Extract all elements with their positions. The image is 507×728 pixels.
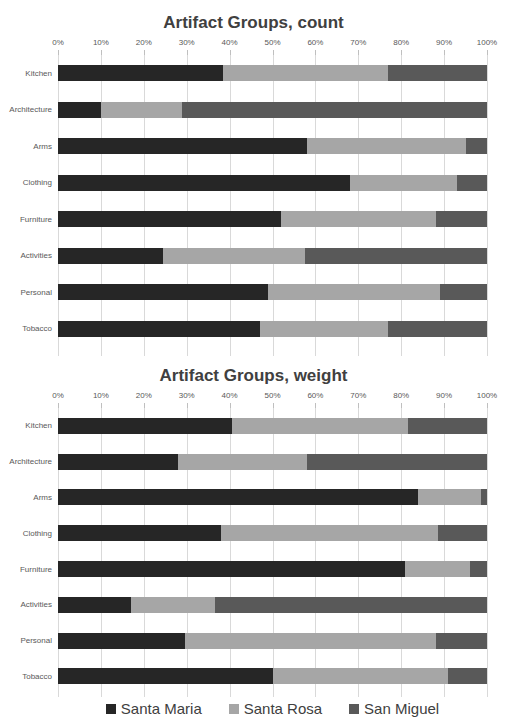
plot-body: KitchenArchitectureArmsClothingFurniture… [58, 408, 487, 697]
axis-tick-label: 10% [93, 391, 109, 400]
bar-row: Arms [58, 480, 487, 516]
legend: Santa Maria Santa Rosa San Miguel [58, 700, 487, 717]
axis-tick-label: 90% [436, 391, 452, 400]
bar-segment-san-miguel [440, 284, 487, 300]
axis-tick-label: 70% [350, 38, 366, 47]
stacked-bar [58, 668, 487, 684]
axis-tick-label: 50% [264, 391, 280, 400]
stacked-bar [58, 175, 487, 191]
chart-count: Artifact Groups, count 0%10%20%30%40%50%… [0, 12, 507, 356]
stacked-bar [58, 284, 487, 300]
bar-segment-santa-rosa [221, 525, 438, 541]
bar-segment-santa-maria [58, 668, 273, 684]
bar-row: Personal [58, 623, 487, 659]
axis-tick-label: 20% [136, 38, 152, 47]
legend-item-san-miguel: San Miguel [349, 700, 439, 717]
axis-tick-label: 60% [307, 38, 323, 47]
bar-segment-san-miguel [408, 418, 487, 434]
category-label: Activities [0, 600, 52, 609]
plot-area: 0%10%20%30%40%50%60%70%80%90%100% Kitche… [58, 38, 487, 356]
chart-title: Artifact Groups, count [0, 12, 507, 34]
stacked-bar [58, 454, 487, 470]
bar-row: Arms [58, 128, 487, 165]
page: Artifact Groups, count 0%10%20%30%40%50%… [0, 0, 507, 728]
bar-row: Furniture [58, 551, 487, 587]
bar-segment-san-miguel [481, 489, 487, 505]
axis-tick-label: 40% [222, 391, 238, 400]
legend-swatch-icon [349, 704, 359, 714]
x-axis: 0%10%20%30%40%50%60%70%80%90%100% [58, 38, 487, 50]
gridline [487, 408, 488, 697]
axis-tick-label: 40% [222, 38, 238, 47]
bar-segment-san-miguel [388, 65, 487, 81]
chart-weight: Artifact Groups, weight 0%10%20%30%40%50… [0, 365, 507, 697]
category-label: Furniture [0, 565, 52, 574]
stacked-bar [58, 597, 487, 613]
bar-segment-santa-maria [58, 321, 260, 337]
category-label: Architecture [0, 105, 52, 114]
plot-body: KitchenArchitectureArmsClothingFurniture… [58, 55, 487, 356]
legend-label: Santa Maria [121, 700, 202, 717]
bar-segment-san-miguel [448, 668, 487, 684]
bar-segment-santa-rosa [131, 597, 215, 613]
bar-segment-santa-maria [58, 525, 221, 541]
bar-segment-santa-maria [58, 489, 418, 505]
stacked-bar [58, 321, 487, 337]
stacked-bar [58, 561, 487, 577]
bar-segment-santa-maria [58, 284, 268, 300]
bar-row: Personal [58, 274, 487, 311]
bar-row: Architecture [58, 444, 487, 480]
bar-row: Clothing [58, 515, 487, 551]
bar-segment-san-miguel [470, 561, 487, 577]
axis-tick-label: 100% [477, 38, 497, 47]
axis-tick-label: 10% [93, 38, 109, 47]
bar-segment-santa-maria [58, 454, 178, 470]
bar-segment-santa-maria [58, 138, 307, 154]
bar-segment-santa-maria [58, 633, 185, 649]
category-label: Personal [0, 636, 52, 645]
bar-row: Kitchen [58, 55, 487, 92]
axis-tick-label: 80% [393, 391, 409, 400]
bar-segment-santa-rosa [268, 284, 440, 300]
axis-tick-label: 100% [477, 391, 497, 400]
stacked-bar [58, 489, 487, 505]
bar-segment-santa-maria [58, 418, 232, 434]
bar-segment-san-miguel [466, 138, 487, 154]
legend-item-santa-maria: Santa Maria [106, 700, 202, 717]
stacked-bar [58, 525, 487, 541]
legend-swatch-icon [229, 704, 239, 714]
category-label: Clothing [0, 529, 52, 538]
category-label: Furniture [0, 215, 52, 224]
bar-segment-santa-maria [58, 102, 101, 118]
bar-row: Tobacco [58, 311, 487, 348]
bar-segment-santa-rosa [101, 102, 183, 118]
gridline [487, 55, 488, 356]
bar-segment-santa-maria [58, 65, 223, 81]
plot-area: 0%10%20%30%40%50%60%70%80%90%100% Kitche… [58, 391, 487, 697]
bar-segment-santa-rosa [178, 454, 307, 470]
bar-row: Kitchen [58, 408, 487, 444]
category-label: Kitchen [0, 69, 52, 78]
legend-item-santa-rosa: Santa Rosa [229, 700, 322, 717]
category-label: Architecture [0, 457, 52, 466]
stacked-bar [58, 102, 487, 118]
category-label: Arms [0, 142, 52, 151]
bar-segment-santa-rosa [418, 489, 480, 505]
category-label: Personal [0, 288, 52, 297]
bar-row: Activities [58, 238, 487, 275]
bar-segment-san-miguel [438, 525, 487, 541]
bar-segment-santa-rosa [163, 248, 305, 264]
category-label: Activities [0, 251, 52, 260]
category-label: Arms [0, 493, 52, 502]
bar-row: Furniture [58, 201, 487, 238]
bar-segment-santa-rosa [350, 175, 457, 191]
bar-segment-santa-rosa [405, 561, 469, 577]
axis-tick-label: 20% [136, 391, 152, 400]
axis-tick-label: 80% [393, 38, 409, 47]
bar-segment-santa-maria [58, 561, 405, 577]
legend-label: Santa Rosa [244, 700, 322, 717]
stacked-bar [58, 211, 487, 227]
category-label: Tobacco [0, 672, 52, 681]
axis-tick-label: 0% [52, 391, 64, 400]
stacked-bar [58, 248, 487, 264]
